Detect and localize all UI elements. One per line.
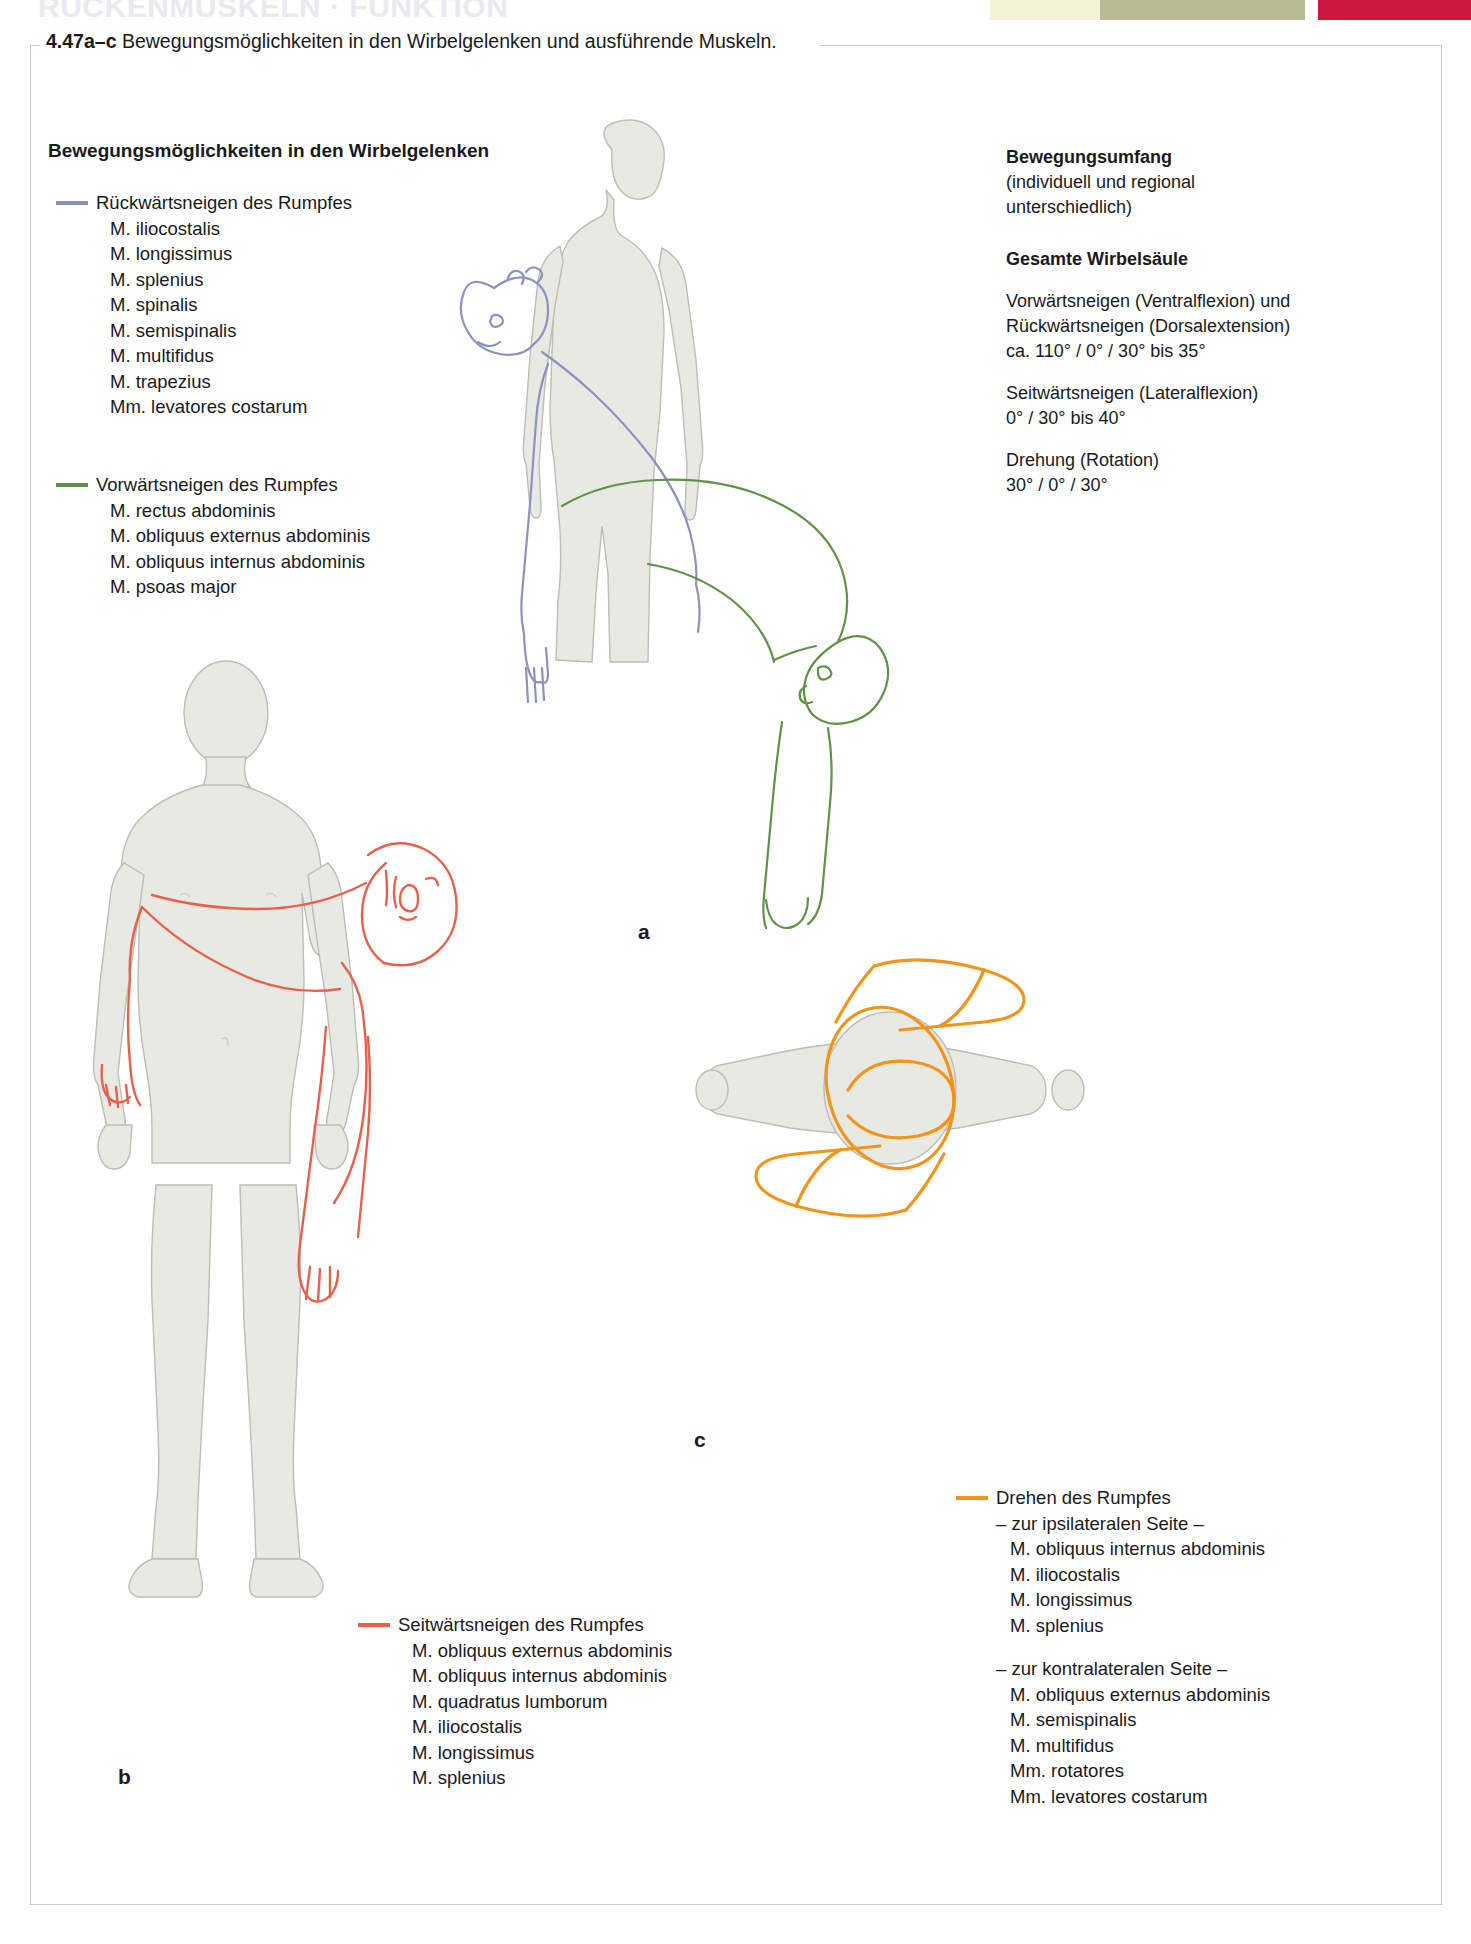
list-item: M. longissimus bbox=[412, 1740, 672, 1766]
top-color-strip-red bbox=[1318, 0, 1471, 20]
legend-extension: Rückwärtsneigen des Rumpfes M. iliocosta… bbox=[48, 190, 352, 420]
legend-extension-label: Rückwärtsneigen des Rumpfes bbox=[96, 192, 352, 213]
figure-caption: 4.47a–c Bewegungsmöglichkeiten in den Wi… bbox=[40, 30, 783, 53]
legend-extension-list: M. iliocostalis M. longissimus M. spleni… bbox=[48, 216, 352, 420]
legend-extension-head: Rückwärtsneigen des Rumpfes bbox=[48, 190, 352, 216]
list-item: M. splenius bbox=[1010, 1613, 1270, 1639]
legend-flexion-list: M. rectus abdominis M. obliquus externus… bbox=[48, 498, 370, 600]
legend-swatch-flexion-icon bbox=[56, 483, 88, 487]
legend-lateral: Seitwärtsneigen des Rumpfes M. obliquus … bbox=[350, 1612, 672, 1791]
legend-rotation-contralateral-label: – zur kontralateralen Seite – bbox=[948, 1656, 1270, 1682]
list-item: M. splenius bbox=[110, 267, 352, 293]
figure-frame-top-right bbox=[820, 45, 1442, 46]
legend-lateral-label: Seitwärtsneigen des Rumpfes bbox=[398, 1614, 644, 1635]
figure-page: RUCKENMUSKELN · FUNKTION 4.47a–c Bewegun… bbox=[0, 0, 1471, 1944]
list-item: M. iliocostalis bbox=[412, 1714, 672, 1740]
legend-rotation-contralateral-list: M. obliquus externus abdominis M. semisp… bbox=[948, 1682, 1270, 1810]
list-item: Mm. levatores costarum bbox=[1010, 1784, 1270, 1810]
legend-title: Bewegungsmöglichkeiten in den Wirbelgele… bbox=[48, 140, 489, 162]
list-item: M. quadratus lumborum bbox=[412, 1689, 672, 1715]
running-head: RUCKENMUSKELN · FUNKTION bbox=[38, 0, 508, 24]
legend-flexion: Vorwärtsneigen des Rumpfes M. rectus abd… bbox=[48, 472, 370, 600]
list-item: M. iliocostalis bbox=[1010, 1562, 1270, 1588]
legend-rotation-ipsilateral-label: – zur ipsilateralen Seite – bbox=[948, 1511, 1270, 1537]
list-item: M. semispinalis bbox=[1010, 1707, 1270, 1733]
panel-letter-c: c bbox=[694, 1428, 706, 1452]
list-item: M. obliquus externus abdominis bbox=[412, 1638, 672, 1664]
list-item: M. trapezius bbox=[110, 369, 352, 395]
list-item: M. iliocostalis bbox=[110, 216, 352, 242]
list-item: M. obliquus internus abdominis bbox=[412, 1663, 672, 1689]
legend-rotation-head: Drehen des Rumpfes bbox=[948, 1485, 1270, 1511]
list-item: M. rectus abdominis bbox=[110, 498, 370, 524]
legend-swatch-lateral-icon bbox=[358, 1623, 390, 1627]
legend-lateral-list: M. obliquus externus abdominis M. obliqu… bbox=[350, 1638, 672, 1791]
legend-rotation: Drehen des Rumpfes – zur ipsilateralen S… bbox=[948, 1485, 1270, 1809]
list-item: Mm. levatores costarum bbox=[110, 394, 352, 420]
list-item: Mm. rotatores bbox=[1010, 1758, 1270, 1784]
legend-rotation-spacer bbox=[948, 1638, 1270, 1656]
topdown-body-silhouette bbox=[696, 1012, 1084, 1164]
list-item: M. obliquus externus abdominis bbox=[110, 523, 370, 549]
legend-flexion-label: Vorwärtsneigen des Rumpfes bbox=[96, 474, 338, 495]
legend-rotation-label: Drehen des Rumpfes bbox=[996, 1487, 1171, 1508]
front-body-silhouette bbox=[94, 661, 359, 1597]
top-color-strip-cream bbox=[990, 0, 1100, 20]
list-item: M. multifidus bbox=[110, 343, 352, 369]
list-item: M. longissimus bbox=[110, 241, 352, 267]
list-item: M. obliquus internus abdominis bbox=[110, 549, 370, 575]
panel-letter-a: a bbox=[638, 920, 650, 944]
legend-rotation-ipsilateral-list: M. obliquus internus abdominis M. ilioco… bbox=[948, 1536, 1270, 1638]
legend-flexion-head: Vorwärtsneigen des Rumpfes bbox=[48, 472, 370, 498]
list-item: M. obliquus externus abdominis bbox=[1010, 1682, 1270, 1708]
list-item: M. psoas major bbox=[110, 574, 370, 600]
legend-lateral-head: Seitwärtsneigen des Rumpfes bbox=[350, 1612, 672, 1638]
top-color-strip-olive bbox=[1100, 0, 1305, 20]
legend-swatch-extension-icon bbox=[56, 201, 88, 205]
panel-letter-b: b bbox=[118, 1765, 131, 1789]
list-item: M. spinalis bbox=[110, 292, 352, 318]
figure-caption-text: Bewegungsmöglichkeiten in den Wirbelgele… bbox=[122, 30, 777, 52]
figure-panel-c-illustration: c bbox=[690, 930, 1090, 1260]
list-item: M. longissimus bbox=[1010, 1587, 1270, 1613]
list-item: M. obliquus internus abdominis bbox=[1010, 1536, 1270, 1562]
standing-body-silhouette bbox=[523, 120, 702, 662]
list-item: M. splenius bbox=[412, 1765, 672, 1791]
figure-caption-number: 4.47a–c bbox=[46, 30, 117, 52]
list-item: M. semispinalis bbox=[110, 318, 352, 344]
legend-swatch-rotation-icon bbox=[956, 1496, 988, 1500]
list-item: M. multifidus bbox=[1010, 1733, 1270, 1759]
